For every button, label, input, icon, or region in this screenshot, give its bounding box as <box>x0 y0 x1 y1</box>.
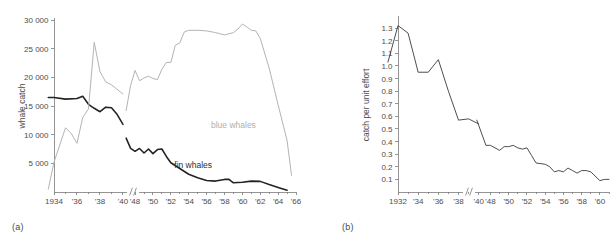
svg-text:'54: '54 <box>183 197 194 206</box>
panel-b-caption: (b) <box>342 222 354 232</box>
panel-b-data-lines <box>388 26 609 181</box>
svg-text:fin whales: fin whales <box>174 160 212 170</box>
svg-text:'40: '40 <box>473 197 484 206</box>
panel-b-x-tick-labels: 1932'34'36'38'40'48'50'52'54'56'58'60 <box>389 197 606 206</box>
svg-text:'38: '38 <box>453 197 464 206</box>
svg-text:'48: '48 <box>130 197 141 206</box>
svg-text:30 000: 30 000 <box>24 16 49 25</box>
svg-text:'38: '38 <box>95 197 106 206</box>
svg-text:'36: '36 <box>433 197 444 206</box>
svg-text:'66: '66 <box>291 197 302 206</box>
svg-text:0.2: 0.2 <box>381 163 393 172</box>
panel-a-y-axis-title: whale catch <box>17 83 27 129</box>
svg-text:15 000: 15 000 <box>24 102 49 111</box>
panel-b-catch-per-unit-effort: 0.10.20.30.40.50.60.70.80.91.01.11.21.3 … <box>306 0 613 236</box>
panel-b-tick-marks <box>395 28 609 195</box>
svg-text:blue whales: blue whales <box>211 120 256 130</box>
panel-b-plot: 0.10.20.30.40.50.60.70.80.91.01.11.21.3 … <box>306 0 613 236</box>
svg-text:'50: '50 <box>503 197 514 206</box>
svg-text:0.1: 0.1 <box>381 175 393 184</box>
panel-a-plot: 5 00010 00015 00020 00025 00030 000 1934… <box>0 0 306 236</box>
svg-text:20 000: 20 000 <box>24 73 49 82</box>
panel-b-y-tick-labels: 0.10.20.30.40.50.60.70.80.91.01.11.21.3 <box>381 24 393 184</box>
svg-text:0.8: 0.8 <box>381 87 393 96</box>
svg-text:'34: '34 <box>413 197 424 206</box>
svg-text:1934: 1934 <box>45 197 63 206</box>
svg-text:'50: '50 <box>148 197 159 206</box>
svg-text:'58: '58 <box>219 197 230 206</box>
svg-text:0.5: 0.5 <box>381 125 393 134</box>
svg-text:0.7: 0.7 <box>381 100 393 109</box>
panel-a-y-tick-labels: 5 00010 00015 00020 00025 00030 000 <box>24 16 49 168</box>
svg-text:25 000: 25 000 <box>24 45 49 54</box>
panel-a-x-tick-labels: 1934'36'38'40'48'50'52'54'56'58'60'62'64… <box>45 197 302 206</box>
svg-text:0.6: 0.6 <box>381 112 393 121</box>
svg-text:'62: '62 <box>255 197 266 206</box>
svg-text:'48: '48 <box>485 197 496 206</box>
svg-text:'52: '52 <box>166 197 177 206</box>
svg-text:0.9: 0.9 <box>381 75 393 84</box>
svg-text:'56: '56 <box>558 197 569 206</box>
panel-a-series-annotations: blue whalesfin whales <box>174 120 256 170</box>
svg-text:'64: '64 <box>273 197 284 206</box>
whale-catch-figure: 5 00010 00015 00020 00025 00030 000 1934… <box>0 0 613 236</box>
panel-a-data-lines <box>48 24 291 190</box>
svg-text:5 000: 5 000 <box>28 159 49 168</box>
svg-text:'54: '54 <box>540 197 551 206</box>
svg-text:'56: '56 <box>201 197 212 206</box>
panel-b-axes <box>398 16 609 196</box>
svg-text:1.0: 1.0 <box>381 62 393 71</box>
svg-text:'52: '52 <box>522 197 533 206</box>
panel-a-caption: (a) <box>12 222 24 232</box>
svg-text:1932: 1932 <box>389 197 407 206</box>
svg-text:0.4: 0.4 <box>381 138 393 147</box>
svg-text:'60: '60 <box>237 197 248 206</box>
svg-text:'60: '60 <box>595 197 606 206</box>
svg-text:10 000: 10 000 <box>24 131 49 140</box>
svg-text:1.2: 1.2 <box>381 37 393 46</box>
svg-text:'36: '36 <box>72 197 83 206</box>
panel-b-y-axis-title: catch per unit effort <box>361 68 371 141</box>
svg-text:'40: '40 <box>118 197 129 206</box>
svg-text:1.3: 1.3 <box>381 24 393 33</box>
panel-a-whale-catch: 5 00010 00015 00020 00025 00030 000 1934… <box>0 0 306 236</box>
svg-text:0.3: 0.3 <box>381 150 393 159</box>
svg-text:'58: '58 <box>576 197 587 206</box>
